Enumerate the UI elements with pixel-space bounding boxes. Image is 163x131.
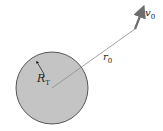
velocity-label: v0 — [145, 7, 155, 21]
velocity-arrow — [135, 11, 142, 29]
orbit-diagram: RT r0 v0 — [0, 0, 163, 131]
radius-vector-label: r0 — [103, 51, 112, 65]
